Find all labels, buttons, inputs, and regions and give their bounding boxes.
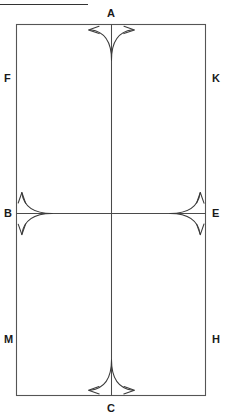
arrowhead-bottom-right xyxy=(124,387,135,394)
label-e: E xyxy=(212,208,219,219)
label-k: K xyxy=(212,73,220,84)
label-a: A xyxy=(107,8,115,19)
arrowhead-left-up xyxy=(18,193,25,204)
label-c: C xyxy=(107,403,115,414)
label-f: F xyxy=(4,73,11,84)
arrowhead-left-down xyxy=(18,224,25,235)
diagram-canvas: A C B E F K M H xyxy=(0,0,227,419)
arrowhead-bottom-left xyxy=(89,387,100,394)
label-m: M xyxy=(4,334,13,345)
label-b: B xyxy=(4,208,12,219)
label-h: H xyxy=(212,334,220,345)
diagram-vector-layer xyxy=(0,0,227,419)
